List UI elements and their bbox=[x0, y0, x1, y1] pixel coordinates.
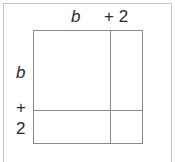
top-label-plus-2: + 2 bbox=[104, 8, 128, 25]
side-label-2: 2 bbox=[16, 120, 25, 137]
top-label-b: b bbox=[71, 8, 80, 25]
side-label-b: b bbox=[16, 64, 25, 81]
side-label-plus: + bbox=[16, 99, 26, 116]
horizontal-divider bbox=[34, 110, 142, 111]
area-model-grid bbox=[33, 30, 143, 144]
vertical-divider bbox=[110, 31, 111, 143]
